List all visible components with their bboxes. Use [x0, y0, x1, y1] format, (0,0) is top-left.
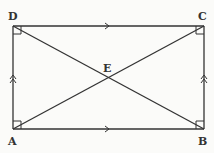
rectangle-diagram: D C A B E	[0, 0, 214, 153]
label-e: E	[103, 62, 111, 75]
label-c: C	[198, 10, 207, 23]
label-d: D	[8, 10, 18, 23]
label-b: B	[198, 135, 207, 148]
label-a: A	[7, 135, 17, 148]
